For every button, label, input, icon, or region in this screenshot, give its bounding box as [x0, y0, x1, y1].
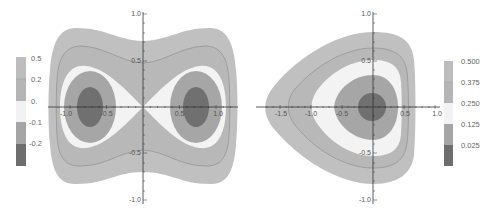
- right-legend-swatch: [444, 124, 453, 145]
- right-legend-swatch: [444, 103, 453, 124]
- right-xtick-label: -0.5: [336, 110, 348, 117]
- left-legend-label: -0.1: [29, 118, 42, 127]
- left-xtick-label: -1.0: [60, 110, 72, 117]
- right-contour-plot: -1.5 -1.0 -0.5 0.5 1.0 1.0 0.5 -0.5 -1.0: [256, 10, 442, 204]
- right-ytick-label: -0.5: [359, 149, 371, 156]
- right-xtick-label: 0.5: [400, 110, 410, 117]
- right-ytick-label: -1.0: [359, 196, 371, 203]
- left-legend: 0.5 0.2 0. -0.1 -0.2: [16, 54, 42, 166]
- left-legend-label: 0.: [31, 97, 37, 106]
- right-legend-swatch: [444, 61, 453, 82]
- left-legend-swatch: [16, 144, 26, 166]
- left-xtick-label: -0.5: [100, 110, 112, 117]
- left-legend-swatch: [16, 122, 26, 144]
- right-legend-label: 0.500: [461, 57, 480, 66]
- right-ytick-label: 0.5: [361, 57, 371, 64]
- figure: -1.0 -0.5 0.5 1.0 1.0 0.5 -0.5 -1.0 0.5 …: [0, 0, 488, 212]
- left-ytick-label: 1.0: [131, 10, 141, 17]
- left-contour-plot: -1.0 -0.5 0.5 1.0 1.0 0.5 -0.5 -1.0: [48, 10, 238, 204]
- left-ytick-label: 0.5: [131, 57, 141, 64]
- left-legend-swatch: [16, 101, 26, 122]
- right-xtick-label: 1.0: [432, 110, 442, 117]
- left-legend-swatch: [16, 79, 26, 101]
- right-ytick-label: 1.0: [361, 10, 371, 17]
- right-legend-label: 0.250: [461, 99, 480, 108]
- right-xtick-label: -1.0: [305, 110, 317, 117]
- left-xtick-label: 0.5: [175, 110, 185, 117]
- right-legend: 0.500 0.375 0.250 0.125 0.025: [444, 57, 480, 166]
- left-ytick-label: -1.0: [129, 196, 141, 203]
- right-legend-label: 0.125: [461, 120, 480, 129]
- left-ytick-label: -0.5: [129, 149, 141, 156]
- right-legend-swatch: [444, 145, 453, 166]
- right-legend-swatch: [444, 82, 453, 103]
- right-legend-label: 0.025: [461, 141, 480, 150]
- left-legend-label: -0.2: [29, 139, 42, 148]
- left-legend-swatch: [16, 57, 26, 79]
- left-legend-label: 0.5: [31, 54, 41, 63]
- right-xtick-label: -1.5: [275, 110, 287, 117]
- left-xtick-label: 1.0: [213, 110, 223, 117]
- right-legend-label: 0.375: [461, 78, 480, 87]
- left-legend-label: 0.2: [31, 75, 41, 84]
